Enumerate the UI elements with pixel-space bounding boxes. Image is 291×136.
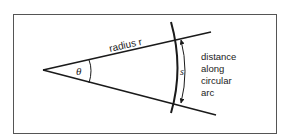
angle-label: θ [76, 65, 82, 77]
circular-arc [171, 22, 178, 113]
arc-description-line-4: arc [201, 87, 214, 98]
arc-description-line-1: distance [201, 51, 236, 62]
arc-description-line-3: circular [201, 75, 232, 86]
arc-description-line-2: along [201, 63, 224, 74]
diagram-frame [14, 15, 277, 134]
angle-arc [89, 60, 91, 83]
lower-radius-line [43, 70, 216, 115]
arc-length-label: s [180, 66, 184, 77]
upper-radius-line [43, 32, 211, 70]
arc-length-diagram: radius r θ s distance along circular arc [0, 0, 291, 136]
